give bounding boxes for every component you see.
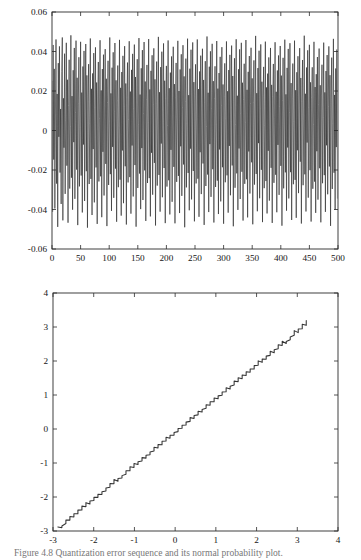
x-tick-label: 300: [217, 253, 231, 263]
x-tick-label: -1: [131, 535, 139, 545]
x-tick-label: -3: [49, 535, 57, 545]
x-tick-label: 1: [214, 535, 219, 545]
x-tick-label: 350: [245, 253, 259, 263]
x-tick-label: 250: [188, 253, 202, 263]
y-tick-label: 0.04: [31, 47, 47, 57]
normal-probability-svg: -3-2-101234-3-2-101234: [0, 282, 361, 560]
x-tick-label: 0: [50, 253, 55, 263]
x-tick-label: 100: [102, 253, 116, 263]
chart-quantization-error-series: 050100150200250300350400450500-0.06-0.04…: [0, 0, 361, 282]
y-tick-label: 4: [43, 288, 48, 298]
x-tick-label: 400: [274, 253, 288, 263]
series-quantization-error: [52, 35, 337, 227]
y-tick-label: -0.02: [28, 165, 48, 175]
y-tick-label: 0.02: [31, 86, 47, 96]
y-tick-label: 0.06: [31, 7, 47, 17]
y-tick-label: -2: [40, 492, 48, 502]
y-tick-label: -3: [40, 526, 48, 536]
x-tick-label: -2: [90, 535, 98, 545]
series-normal-probability: [58, 320, 306, 527]
figure-caption: Figure 4.8 Quantization error sequence a…: [14, 548, 358, 559]
x-tick-label: 500: [331, 253, 345, 263]
x-tick-label: 3: [295, 535, 300, 545]
y-tick-label: -0.06: [28, 244, 48, 254]
x-tick-label: 200: [160, 253, 174, 263]
x-tick-label: 450: [303, 253, 317, 263]
y-tick-label: -0.04: [28, 205, 48, 215]
x-tick-label: 0: [173, 535, 178, 545]
y-tick-label: 3: [43, 322, 48, 332]
y-tick-label: 2: [43, 356, 48, 366]
quantization-error-svg: 050100150200250300350400450500-0.06-0.04…: [0, 0, 361, 282]
figure-container: 050100150200250300350400450500-0.06-0.04…: [0, 0, 361, 560]
y-tick-label: 0: [42, 126, 47, 136]
y-tick-label: 0: [43, 424, 48, 434]
y-tick-label: 1: [43, 390, 48, 400]
x-tick-label: 150: [131, 253, 145, 263]
y-tick-label: -1: [40, 458, 48, 468]
x-tick-label: 50: [76, 253, 86, 263]
chart-normal-probability-plot: -3-2-101234-3-2-101234: [0, 282, 361, 560]
x-tick-label: 2: [254, 535, 259, 545]
x-tick-label: 4: [336, 535, 341, 545]
